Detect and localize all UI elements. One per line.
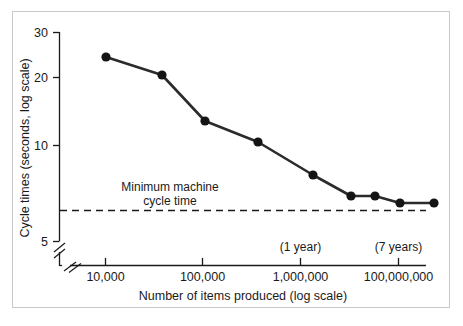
data-point: [253, 137, 262, 146]
x-tick-label-1000000: 1,000,000: [273, 270, 329, 284]
data-point: [308, 170, 317, 179]
data-point: [370, 191, 379, 200]
x-axis-ticks: [106, 258, 399, 266]
x-tick-label-10000: 10,000: [86, 270, 124, 284]
chart-canvas: 30 20 10 5 10,000 100,000 1,000,000 100,…: [0, 0, 463, 326]
data-point: [101, 52, 110, 61]
y-tick-label-10: 10: [34, 139, 48, 153]
y-axis-ticks: [53, 33, 60, 242]
y-tick-label-5: 5: [41, 235, 48, 249]
annotation-seven-years: (7 years): [375, 240, 422, 254]
y-axis-title: Cycle times (seconds, log scale): [18, 58, 32, 237]
data-point: [395, 198, 404, 207]
x-tick-label-100000: 100,000: [180, 270, 225, 284]
x-tick-label-100000000: 100,000,000: [364, 270, 434, 284]
annotation-one-year: (1 year): [280, 240, 321, 254]
y-tick-label-20: 20: [34, 71, 48, 85]
data-point: [200, 116, 209, 125]
x-axis-break-marks: [64, 262, 81, 273]
x-axis-title: Number of items produced (log scale): [139, 289, 347, 303]
data-point: [346, 191, 355, 200]
data-point: [157, 70, 166, 79]
chart-figure: 30 20 10 5 10,000 100,000 1,000,000 100,…: [0, 0, 463, 326]
y-tick-label-30: 30: [34, 26, 48, 40]
reference-line-label-line2: cycle time: [143, 194, 197, 208]
data-point: [429, 198, 438, 207]
reference-line-label-line1: Minimum machine: [121, 180, 219, 194]
